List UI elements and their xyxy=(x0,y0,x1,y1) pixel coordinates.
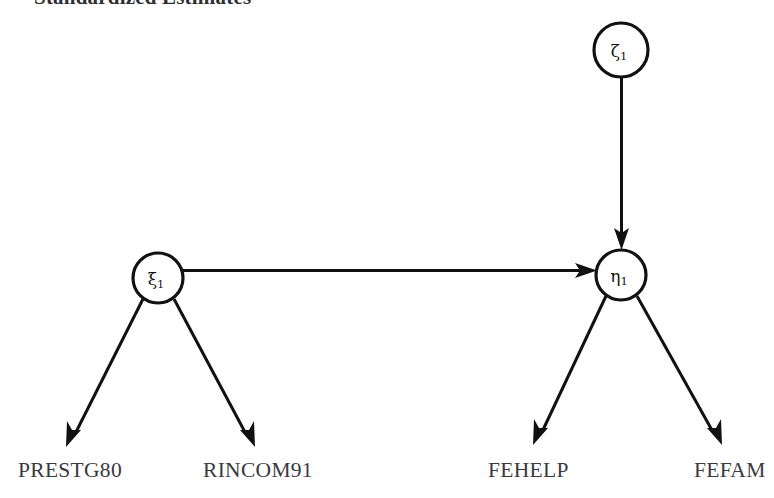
latent-node-xi1[interactable]: ξ1 xyxy=(133,253,183,303)
xi-subscript: 1 xyxy=(157,277,164,291)
edge-eta1-to-fehelp xyxy=(533,296,606,445)
edge-xi1-to-eta1 xyxy=(183,263,597,278)
eta-subscript: 1 xyxy=(620,274,627,288)
edge-eta1-to-fehelp-line xyxy=(542,296,606,432)
zeta-glyph: ζ xyxy=(611,41,620,61)
zeta-subscript: 1 xyxy=(620,49,627,63)
edge-zeta1-to-eta1 xyxy=(614,77,629,250)
path-diagram-figure: Standardized Estimates xyxy=(0,0,774,498)
eta-glyph: η xyxy=(610,266,620,286)
edge-xi1-to-prestg80 xyxy=(66,299,143,447)
edge-xi1-to-prestg80-line xyxy=(75,299,143,434)
observed-variable-fehelp: FEHELP xyxy=(488,458,569,482)
observed-variable-rincom91: RINCOM91 xyxy=(203,458,313,482)
xi-glyph: ξ xyxy=(148,269,157,289)
diagram-canvas: ζ1 ξ1 η1 PRESTG80 RINCOM91 FEHELP FEFAM xyxy=(0,0,774,498)
latent-node-eta1[interactable]: η1 xyxy=(596,250,646,300)
edge-xi1-to-rincom91-line xyxy=(174,299,246,434)
observed-variable-fefam: FEFAM xyxy=(694,458,766,482)
edge-eta1-to-fefam-line xyxy=(637,296,713,432)
edge-xi1-to-rincom91 xyxy=(174,299,255,447)
observed-variable-prestg80: PRESTG80 xyxy=(18,458,122,482)
edge-eta1-to-fefam xyxy=(637,296,722,445)
latent-node-zeta1[interactable]: ζ1 xyxy=(594,23,648,77)
